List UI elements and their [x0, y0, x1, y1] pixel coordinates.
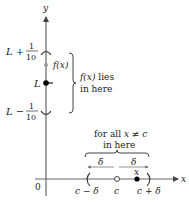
x-interval-brace: for all x ≠ c in here — [85, 129, 149, 157]
x-point-dot-icon — [134, 176, 139, 181]
y-axis-label: y — [42, 3, 49, 13]
right-brace-icon — [69, 53, 76, 113]
x-axis: x 0 — [35, 174, 186, 192]
epsilon-delta-limit-diagram: y x 0 L + 1 10 f(x) L L − 1 10 f(x) lies — [0, 0, 189, 203]
lower-bound-label: L − — [5, 106, 24, 117]
upper-bound-numerator: 1 — [29, 42, 34, 51]
upper-bound-label: L + — [5, 46, 24, 57]
limit-label: L — [33, 78, 41, 89]
c-plus-delta-label: c + δ — [137, 186, 161, 196]
right-delta-label: δ — [131, 157, 136, 167]
lower-bound-marker: L − 1 10 — [5, 102, 51, 122]
top-brace-icon — [85, 150, 149, 157]
x-interval-text-line2: in here — [103, 140, 135, 150]
x-interval-markers: x c − δ c c + δ — [75, 167, 161, 196]
y-axis: y — [42, 3, 49, 196]
delta-arrows: δ δ — [88, 157, 148, 167]
fx-point-label: f(x) — [52, 60, 69, 70]
c-minus-delta-label: c − δ — [75, 186, 99, 196]
left-delta-label: δ — [98, 157, 103, 167]
x-interval-text-line1: for all x ≠ c — [94, 129, 147, 139]
origin-label: 0 — [35, 182, 41, 192]
fx-point: f(x) — [44, 60, 69, 70]
open-circle-c-icon — [115, 177, 120, 182]
x-axis-label: x — [181, 174, 186, 184]
upper-bound-denominator: 10 — [26, 53, 36, 62]
lower-bound-denominator: 10 — [26, 113, 36, 122]
upper-bound-marker: L + 1 10 — [5, 42, 51, 62]
fx-range-brace: f(x) lies in here — [69, 53, 114, 113]
lower-bound-numerator: 1 — [29, 102, 34, 111]
limit-point: L — [33, 78, 53, 89]
fx-range-text-line2: in here — [80, 84, 112, 94]
x-point-label: x — [134, 167, 139, 177]
c-label: c — [114, 186, 119, 196]
fx-range-text-line1: f(x) lies — [79, 72, 114, 82]
